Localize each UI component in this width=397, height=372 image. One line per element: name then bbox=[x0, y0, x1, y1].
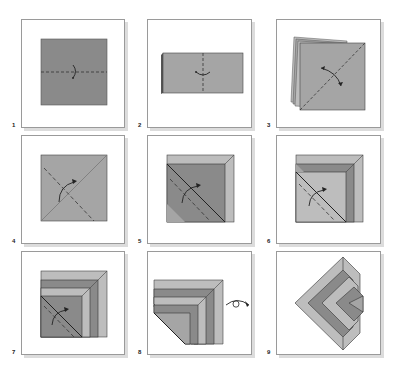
step-4-diagram bbox=[22, 136, 126, 245]
step-panel-4: 4 bbox=[21, 135, 125, 244]
step-number: 7 bbox=[12, 349, 15, 355]
step-panel-7: 7 bbox=[21, 251, 125, 355]
step-7-diagram bbox=[22, 252, 126, 356]
step-panel-6: 6 bbox=[276, 135, 381, 244]
step-number: 3 bbox=[267, 122, 270, 128]
step-panel-8: 8 bbox=[147, 251, 252, 355]
turn-over-icon bbox=[226, 301, 249, 308]
step-number: 5 bbox=[138, 238, 141, 244]
step-panel-3: 3 bbox=[276, 19, 381, 128]
step-number: 8 bbox=[138, 349, 141, 355]
step-8-diagram bbox=[148, 252, 253, 356]
step-panel-9: 9 bbox=[276, 251, 381, 355]
step-panel-1: 1 bbox=[21, 19, 125, 128]
step-number: 6 bbox=[267, 238, 270, 244]
step-panel-5: 5 bbox=[147, 135, 252, 244]
step-1-diagram bbox=[22, 20, 126, 129]
step-number: 2 bbox=[138, 122, 141, 128]
step-2-diagram bbox=[148, 20, 253, 129]
step-6-diagram bbox=[277, 136, 382, 245]
step-number: 4 bbox=[12, 238, 15, 244]
step-5-diagram bbox=[148, 136, 253, 245]
step-9-diagram bbox=[277, 252, 382, 356]
step-panel-2: 2 bbox=[147, 19, 252, 128]
step-number: 9 bbox=[267, 349, 270, 355]
step-3-diagram bbox=[277, 20, 382, 129]
step-number: 1 bbox=[12, 122, 15, 128]
